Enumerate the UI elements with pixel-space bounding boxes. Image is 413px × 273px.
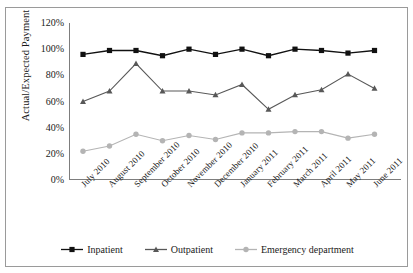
- data-point: [107, 143, 112, 148]
- series-line-outpatient: [83, 64, 375, 110]
- legend-label: Emergency department: [261, 244, 354, 255]
- data-point: [80, 149, 85, 154]
- data-point: [133, 132, 138, 137]
- data-point: [239, 47, 244, 52]
- data-point: [186, 133, 191, 138]
- plot-svg: [69, 23, 401, 180]
- chart-figure: Actual/Expected Payment 0%20%40%60%80%10…: [0, 0, 413, 273]
- data-point: [319, 48, 324, 53]
- data-point: [239, 81, 245, 87]
- data-point: [372, 48, 377, 53]
- data-point: [186, 47, 191, 52]
- data-point: [319, 129, 324, 134]
- y-tick-label: 60%: [30, 97, 64, 107]
- data-point: [372, 85, 378, 91]
- data-point: [160, 138, 165, 143]
- data-point: [107, 48, 112, 53]
- data-point: [239, 130, 244, 135]
- chart-legend: InpatientOutpatientEmergency department: [6, 244, 409, 255]
- y-tick-label: 40%: [30, 123, 64, 133]
- legend-item-outpatient[interactable]: Outpatient: [145, 244, 213, 255]
- data-point: [160, 53, 165, 58]
- data-point: [266, 53, 271, 58]
- x-axis-tick-labels: July 2010August 2010September 2010Octobe…: [69, 182, 409, 244]
- data-point: [213, 52, 218, 57]
- data-point: [133, 48, 138, 53]
- legend-label: Inpatient: [87, 244, 123, 255]
- data-point: [319, 87, 325, 93]
- y-tick-label: 120%: [30, 18, 64, 28]
- legend-item-inpatient[interactable]: Inpatient: [61, 244, 123, 255]
- plot-area: [69, 23, 401, 180]
- y-tick-label: 100%: [30, 44, 64, 54]
- y-tick-label: 0%: [30, 175, 64, 185]
- data-point: [292, 129, 297, 134]
- legend-marker-icon: [145, 244, 167, 255]
- data-point: [372, 132, 377, 137]
- legend-label: Outpatient: [171, 244, 213, 255]
- series-line-inpatient: [83, 49, 375, 56]
- y-tick-label: 20%: [30, 149, 64, 159]
- figure-top-caption: [6, 0, 406, 3]
- legend-marker-icon: [235, 244, 257, 255]
- chart-frame: Actual/Expected Payment 0%20%40%60%80%10…: [5, 7, 408, 267]
- data-point: [292, 47, 297, 52]
- y-tick-label: 80%: [30, 70, 64, 80]
- data-point: [133, 60, 139, 65]
- data-point: [266, 130, 271, 135]
- data-point: [213, 137, 218, 142]
- legend-marker-icon: [61, 244, 83, 255]
- data-point: [345, 135, 350, 140]
- data-point: [345, 71, 351, 77]
- y-axis-tick-labels: 0%20%40%60%80%100%120%: [26, 8, 64, 188]
- legend-item-emergency-department[interactable]: Emergency department: [235, 244, 354, 255]
- data-point: [345, 50, 350, 55]
- data-point: [80, 52, 85, 57]
